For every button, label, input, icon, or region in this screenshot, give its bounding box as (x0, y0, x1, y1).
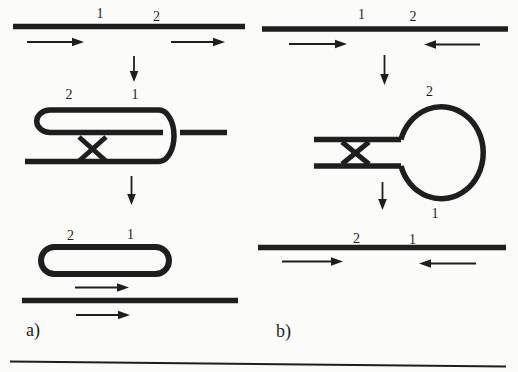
panel-b (258, 29, 508, 268)
b-product-site2-label: 2 (347, 232, 367, 246)
b-step1-down-arrow-icon (380, 55, 389, 85)
b-primer2-left-arrow-icon (424, 40, 480, 49)
figure-canvas: 1 2 2 1 2 1 a) 1 2 2 1 2 1 b) (0, 0, 518, 372)
a-foldback-structure (25, 110, 227, 162)
a-step1-arrow-head (130, 71, 139, 82)
b-crossover-x-icon (342, 142, 369, 164)
a-step2-down-arrow-icon (127, 176, 136, 205)
a-parent-site1-label: 1 (90, 7, 110, 21)
b-loop-site1-label: 1 (425, 207, 445, 221)
a-product-lower-right-arrow-icon (76, 311, 130, 320)
a-primer1-arrow-head (72, 38, 84, 47)
a-primer2-arrow-head (213, 38, 225, 47)
panel-a (13, 27, 245, 320)
a-primer1-right-arrow-icon (27, 38, 84, 47)
a-excised-site1-label: 1 (121, 228, 141, 242)
b-loop-site2-label: 2 (420, 85, 440, 99)
a-parent-site2-label: 2 (147, 10, 167, 24)
b-stem-loop-structure (314, 107, 483, 199)
b-primer1-right-arrow-icon (289, 40, 347, 49)
b-parent-site1-label: 1 (352, 8, 372, 22)
b-product-right-arrow-icon (282, 257, 343, 266)
b-primer2-arrow-head (424, 40, 436, 49)
a-product-upper-arrow-head (117, 283, 129, 292)
figure-baseline-rule (10, 362, 506, 367)
b-parent-site2-label: 2 (403, 10, 423, 24)
diagram-svg (0, 0, 518, 372)
a-primer2-right-arrow-icon (171, 38, 225, 47)
b-single-strand-loop-circle (401, 107, 483, 199)
a-excised-site2-label: 2 (61, 229, 81, 243)
b-product-left-arrow-head (419, 259, 431, 268)
a-excised-circle-loop (41, 247, 169, 274)
a-foldback-site2-label: 2 (59, 88, 79, 102)
a-crossover-x-icon (79, 137, 106, 161)
a-product-upper-right-arrow-icon (75, 283, 129, 292)
b-product-right-arrow-head (331, 257, 343, 266)
a-product-lower-arrow-head (118, 311, 130, 320)
b-primer1-arrow-head (335, 40, 347, 49)
b-step2-down-arrow-icon (378, 182, 387, 210)
panel-b-label: b) (276, 322, 291, 340)
b-product-left-arrow-icon (419, 259, 476, 268)
a-foldback-site1-label: 1 (125, 88, 145, 102)
a-step1-down-arrow-icon (130, 56, 139, 82)
b-step2-arrow-head (378, 199, 387, 210)
b-product-site1-label: 1 (403, 233, 423, 247)
a-step2-arrow-head (127, 194, 136, 205)
panel-a-label: a) (26, 321, 40, 339)
b-step1-arrow-head (380, 74, 389, 85)
